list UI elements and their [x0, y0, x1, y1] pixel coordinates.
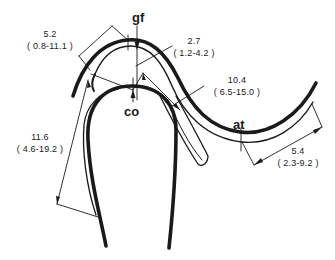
measurement-m5: 5.4 ( 2.3-9.2 ) — [272, 147, 324, 168]
co-arrowhead — [131, 90, 136, 98]
measurement-m2: 2.7 ( 1.2-4.2 ) — [168, 37, 220, 58]
measurement-m4: 11.6 ( 4.6-19.2 ) — [12, 133, 68, 154]
measurement-m2-value: 2.7 — [187, 36, 200, 46]
dim-ext-m1b — [112, 26, 129, 41]
dim-line-m1 — [79, 26, 112, 56]
diagram-canvas: gf co at 5.2 ( 0.8-11.1 ) 2.7 ( 1.2-4.2 … — [0, 0, 335, 260]
measurement-m4-value: 11.6 — [31, 132, 49, 142]
measurement-m3: 10.4 ( 6.5-15.0 ) — [206, 76, 268, 97]
dim-ext-m4a — [91, 74, 133, 90]
measurement-m1-value: 5.2 — [43, 29, 56, 39]
m5-arrowhead-left — [254, 158, 263, 165]
measurement-m2-range: ( 1.2-4.2 ) — [168, 49, 220, 58]
measurement-m5-value: 5.4 — [291, 146, 304, 156]
measurement-m3-range: ( 6.5-15.0 ) — [206, 88, 268, 97]
label-at: at — [233, 118, 245, 131]
measurement-m1-range: ( 0.8-11.1 ) — [20, 42, 80, 51]
m5-arrowhead-right — [313, 127, 322, 134]
measurement-m3-value: 10.4 — [228, 75, 246, 85]
measurement-m4-range: ( 4.6-19.2 ) — [12, 145, 68, 154]
m4-arrowhead — [56, 196, 60, 204]
measurement-m1: 5.2 ( 0.8-11.1 ) — [20, 30, 80, 51]
label-co: co — [124, 105, 139, 118]
leader-m2 — [136, 46, 172, 66]
label-gf: gf — [132, 11, 144, 24]
inner-membrane-curve — [95, 46, 313, 142]
measurement-m5-range: ( 2.3-9.2 ) — [272, 159, 324, 168]
left-hook-curve — [92, 74, 95, 91]
dim-ext-m4b — [57, 204, 98, 217]
dim-ext-m5b — [312, 104, 322, 127]
dim-ext-m5a — [242, 142, 254, 165]
